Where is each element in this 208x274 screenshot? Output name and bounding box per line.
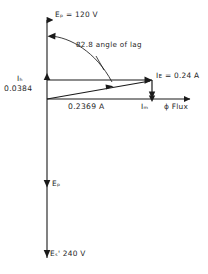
arrowhead-ih <box>44 73 51 80</box>
arrowhead-ie-mid <box>106 85 114 90</box>
arrowhead-arc-start <box>47 33 55 40</box>
label-ep-mid: Eₚ <box>52 180 60 188</box>
angle-leader-line <box>96 56 104 70</box>
ie-resultant-line <box>47 81 150 99</box>
label-angle-of-lag: 82.8 angle of lag <box>76 41 142 49</box>
label-ie: Iᴇ = 0.24 A <box>156 72 199 80</box>
angle-leader <box>96 56 104 70</box>
label-es-bottom: Eₛ' 240 V <box>50 250 86 258</box>
label-im: Iₘ <box>141 103 148 111</box>
vector-ih <box>44 73 152 80</box>
arrowhead-ie <box>145 76 153 83</box>
phasor-diagram: Eₚ = 120 V 82.8 angle of lag Iₕ 0.0384 I… <box>0 0 208 274</box>
arrowhead-ep-mid <box>44 180 51 188</box>
label-ih: Iₕ <box>17 75 23 83</box>
label-ep-top: Eₚ = 120 V <box>55 11 98 19</box>
label-ih-value: 0.0384 <box>4 85 32 93</box>
vertical-axis <box>44 20 51 258</box>
label-flux: ϕ Flux <box>164 103 188 111</box>
label-horizontal-value: 0.2369 A <box>68 103 105 111</box>
